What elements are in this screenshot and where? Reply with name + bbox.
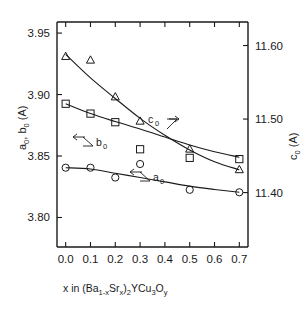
plot-frame bbox=[57, 22, 248, 247]
b0-fit bbox=[66, 104, 240, 157]
x-axis-title-text: x in (Ba1-xSrx)2YCu3Oy bbox=[63, 282, 168, 297]
left-axis-title: a0, b0 (A) bbox=[16, 106, 31, 150]
marker-a0-1 bbox=[87, 164, 94, 171]
x-ticklabel-5: 0.5 bbox=[182, 253, 198, 265]
x-ticklabel-1: 0.1 bbox=[82, 253, 98, 265]
right-ticklabel-2: 11.40 bbox=[255, 187, 283, 199]
annotation-c0-subscript: 0 bbox=[155, 119, 159, 128]
x-ticklabel-2: 0.2 bbox=[107, 253, 123, 265]
left-ticklabel-1: 3.90 bbox=[28, 89, 50, 101]
x-ticklabel-3: 0.3 bbox=[132, 253, 148, 265]
svg-text:c0 (A): c0 (A) bbox=[287, 133, 302, 160]
left-axis-title-unit: (A) bbox=[16, 106, 28, 124]
x-ticklabel-6: 0.6 bbox=[207, 253, 223, 265]
annotation-a0-arrow-icon bbox=[140, 172, 150, 181]
right-ticklabel-1: 11.50 bbox=[255, 113, 283, 125]
right-axis-title: c0 (A) bbox=[287, 133, 302, 160]
annotation-b0: b 0 bbox=[73, 134, 107, 151]
annotation-b0-subscript: 0 bbox=[103, 142, 107, 151]
xtitle-sub1: 1-x bbox=[99, 288, 110, 297]
x-axis-title: x in (Ba1-xSrx)2YCu3Oy bbox=[63, 282, 168, 297]
annotation-c0-arrow-icon bbox=[167, 119, 177, 129]
left-ticklabel-0: 3.95 bbox=[28, 27, 50, 39]
marker-a0-3 bbox=[136, 160, 143, 167]
left-axis-ticks bbox=[57, 33, 62, 217]
left-axis-tick-labels: 3.953.903.853.80 bbox=[28, 27, 50, 223]
annotation-c0-arrow-head-icon bbox=[169, 116, 179, 122]
left-ticklabel-2: 3.85 bbox=[28, 150, 50, 162]
xtitle-mid3: YCu bbox=[131, 282, 152, 294]
right-axis-ticks bbox=[243, 46, 248, 193]
marker-b0-3 bbox=[136, 146, 143, 153]
x-ticklabel-4: 0.4 bbox=[157, 253, 174, 265]
annotation-c0-label: c bbox=[148, 113, 153, 125]
right-axis-tick-labels: 11.6011.5011.40 bbox=[255, 40, 283, 199]
marker-b0-4 bbox=[186, 154, 193, 161]
xtitle-lead: x in (Ba bbox=[63, 282, 99, 294]
annotation-a0: a 0 bbox=[130, 169, 164, 186]
marker-a0-4 bbox=[186, 186, 193, 193]
marker-c0-0 bbox=[62, 52, 70, 59]
figure-canvas: 3.953.903.853.80 11.6011.5011.40 0.00.10… bbox=[0, 0, 307, 310]
right-ticklabel-0: 11.60 bbox=[255, 40, 283, 52]
svg-text:a0, b0 (A): a0, b0 (A) bbox=[16, 106, 31, 150]
annotation-b0-arrow-icon bbox=[83, 137, 93, 146]
bottom-axis-ticks bbox=[66, 242, 240, 247]
annotation-b0-label: b bbox=[96, 136, 102, 148]
x-axis-tick-labels: 0.00.10.20.30.40.50.60.7 bbox=[58, 253, 248, 265]
right-axis-title-unit: (A) bbox=[287, 133, 299, 151]
x-ticklabel-7: 0.7 bbox=[231, 253, 247, 265]
top-axis-ticks bbox=[66, 22, 240, 27]
xtitle-mid4: O bbox=[156, 282, 164, 294]
xtitle-mid1: Sr bbox=[109, 282, 120, 294]
annotation-a0-subscript: 0 bbox=[160, 177, 164, 186]
x-ticklabel-0: 0.0 bbox=[58, 253, 74, 265]
left-ticklabel-3: 3.80 bbox=[28, 211, 50, 223]
marker-a0-2 bbox=[112, 174, 119, 181]
annotation-a0-label: a bbox=[153, 171, 159, 183]
xtitle-sub5: y bbox=[164, 288, 168, 297]
marker-c0-1 bbox=[86, 56, 94, 63]
